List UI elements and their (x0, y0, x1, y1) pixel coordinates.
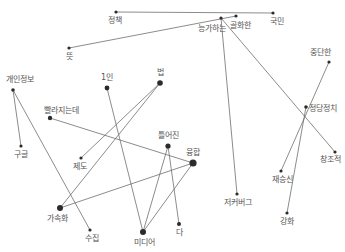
node-label: 제도 (73, 162, 87, 171)
edge-yunghap-midieo (143, 163, 193, 232)
node-ppallajineunde (48, 116, 52, 120)
node-label: 다 (176, 228, 184, 237)
edge-neunggahaneun-changjojeok (221, 18, 335, 152)
node-changjojeok (333, 150, 336, 153)
node-golhwahan (234, 14, 237, 17)
node-label: 법 (157, 67, 164, 77)
label-layer: 정책국민능가하는골화한뜻개인정보1인법빨라지는데구글제도틀어진융합가속화수집미디… (6, 15, 341, 247)
node-label: 능가하는 (198, 23, 226, 33)
node-gasokhwa (57, 205, 63, 211)
node-gugeul (19, 144, 22, 147)
edge-jeongdangjeongchi-ganghwa (287, 107, 306, 213)
node-label: 골화한 (230, 21, 252, 30)
node-label: 틀어진 (158, 130, 179, 140)
node-jedo (79, 156, 82, 159)
node-label: 정당정치 (309, 103, 337, 113)
word-network-diagram: 정책국민능가하는골화한뜻개인정보1인법빨라지는데구글제도틀어진융합가속화수집미디… (0, 0, 345, 252)
node-label: 1인 (101, 72, 113, 82)
node-da (177, 222, 181, 226)
node-ganghwa (285, 211, 288, 214)
edge-layer (13, 12, 335, 232)
node-label: 창조적 (320, 154, 341, 164)
edge-beop-gasokhwa (60, 83, 160, 208)
node-jungdanhan (327, 60, 330, 63)
edge-neunggahaneun-jeokeobeogeu (221, 18, 237, 194)
node-label: 개인정보 (6, 74, 34, 84)
edge-jeongchaek-gukmin (116, 12, 273, 13)
node-jeongdangjeongchi (304, 105, 308, 109)
node-label: 융합 (186, 148, 201, 157)
node-teureojin (165, 143, 170, 148)
node-midieo (140, 229, 146, 235)
node-jaeseungsin (279, 169, 282, 172)
node-label: 중단한 (310, 47, 332, 57)
node-label: 국민 (270, 16, 284, 26)
edge-gaeinjeongbo-gugeul (13, 90, 21, 146)
node-gaeinjeongbo (11, 88, 15, 92)
node-label: 정책 (108, 15, 122, 25)
node-neunggahaneun (219, 16, 222, 19)
edge-ilin-midieo (107, 88, 143, 232)
node-jeongchaek (114, 10, 117, 13)
node-label: 구글 (14, 150, 28, 159)
node-layer (11, 10, 336, 235)
edge-beop-jedo (81, 83, 160, 158)
node-label: 미디어 (134, 237, 155, 247)
node-label: 재승신 (272, 175, 293, 184)
node-label: 수집 (85, 233, 99, 243)
node-tteut (67, 46, 70, 49)
node-label: 뜻 (66, 52, 73, 61)
node-yunghap (189, 159, 196, 166)
node-gukmin (271, 11, 274, 14)
node-label: 빨라지는데 (44, 105, 79, 115)
node-label: 저커버그 (224, 197, 252, 207)
node-label: 가속화 (47, 214, 69, 223)
node-ilin (105, 86, 110, 91)
edge-teureojin-midieo (143, 146, 168, 232)
node-beop (157, 80, 163, 86)
node-label: 강화 (280, 216, 295, 226)
node-sujip (88, 228, 91, 231)
node-jeokeobeogeu (235, 192, 238, 195)
edge-ppallajineunde-yunghap (50, 118, 193, 163)
